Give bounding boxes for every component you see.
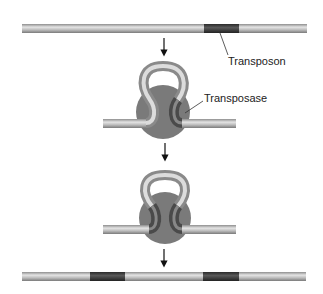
transposition-diagram — [0, 0, 323, 294]
dna-strand — [22, 24, 307, 33]
step-4-dna — [22, 272, 306, 281]
transposase-label: Transposase — [204, 92, 267, 104]
dna-strand-left — [103, 119, 146, 128]
transposon-segment-1 — [90, 272, 125, 281]
transposon-leader-line — [220, 33, 228, 55]
transposon-segment-2 — [203, 272, 239, 281]
transposon-segment — [204, 24, 239, 33]
dna-strand-right — [182, 225, 236, 234]
dna-strand — [22, 272, 306, 281]
dna-strand-left — [103, 225, 149, 234]
dna-strand-right — [182, 119, 236, 128]
transposon-label: Transposon — [228, 55, 286, 67]
step-3-complex — [103, 175, 236, 244]
